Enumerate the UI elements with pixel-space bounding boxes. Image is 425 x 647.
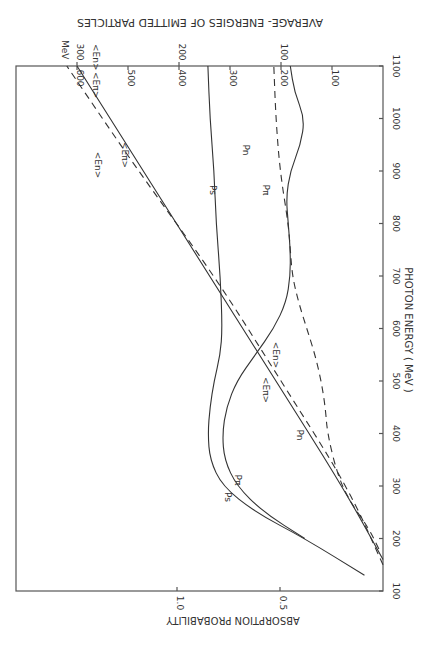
probability-tick-label: 0.5 (278, 596, 288, 610)
e-n-curve-label: <En> (271, 342, 281, 368)
e-pi-tick-label: 300 (228, 69, 238, 86)
e-n-scale-label: <En> (91, 44, 101, 70)
probability-tick-label: 1.0 (175, 596, 185, 611)
particle-energy-axis: 100200300400500600100200300<Eπ><En>MeVAV… (60, 16, 340, 98)
ps-label-upper: Ps (208, 185, 218, 195)
e-n-tick-label: 200 (177, 43, 187, 60)
e-n-tick-label: 100 (279, 43, 289, 60)
ppi-label: Pπ (233, 475, 243, 486)
e-pi-tick-label: 600 (75, 69, 85, 86)
e-pi-curve-label: <Eπ> (261, 377, 271, 403)
photon-energy-tick-label: 1100 (391, 55, 401, 78)
labels: PsPπPsPnPπPn<Eπ><En><Eπ><En> (93, 142, 305, 502)
photon-energy-tick-label: 600 (391, 320, 401, 337)
photon-energy-tick-label: 900 (391, 162, 401, 179)
series-pn (274, 66, 379, 549)
probability-axis: 0.51.0ABSORPTION PROBABILITY (165, 587, 299, 626)
plot-border (16, 66, 383, 591)
photon-energy-axis-label: PHOTON ENERGY ( MeV ) (403, 267, 414, 393)
photon-energy-tick-label: 100 (391, 582, 401, 599)
photon-energy-tick-label: 800 (391, 215, 401, 232)
series-pπ (223, 66, 305, 539)
probability-axis-label: ABSORPTION PROBABILITY (165, 615, 299, 626)
unit-label: MeV (60, 40, 70, 60)
pn-label-lower: Pn (295, 430, 305, 441)
e-n-tick-label: 300 (75, 43, 85, 60)
pn-label-upper: Pn (241, 145, 251, 156)
e-n-curve-label-upper: <En> (93, 152, 103, 178)
photon-energy-tick-label: 400 (391, 425, 401, 442)
photon-energy-tick-label: 700 (391, 267, 401, 284)
ppi-label-upper: Pπ (261, 185, 271, 196)
e-pi-scale-label: <Eπ> (91, 72, 101, 98)
photon-energy-tick-label: 200 (391, 530, 401, 547)
e-pi-tick-label: 500 (126, 69, 136, 86)
chart-title: AVERAGE- ENERGIES OF EMITTED PARTICLES (77, 16, 323, 29)
ps-label: Ps (223, 492, 233, 502)
photon-energy-tick-label: 300 (391, 477, 401, 494)
chart: 10020030040050060070080090010001100PHOTO… (0, 0, 425, 647)
e-pi-tick-label: 100 (330, 69, 340, 86)
photon-energy-tick-label: 500 (391, 372, 401, 389)
photon-energy-axis: 10020030040050060070080090010001100PHOTO… (379, 55, 414, 600)
series-eπ (77, 66, 383, 560)
plot-frame (16, 66, 383, 591)
e-pi-curve-label-upper: <Eπ> (120, 142, 130, 168)
series-en (67, 66, 383, 565)
photon-energy-tick-label: 1000 (391, 107, 401, 130)
e-pi-tick-label: 200 (279, 69, 289, 86)
e-pi-tick-label: 400 (177, 69, 187, 86)
